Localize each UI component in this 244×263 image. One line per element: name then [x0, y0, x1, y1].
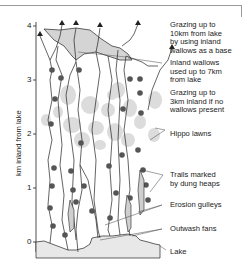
- y-tick-4: 4: [27, 21, 31, 30]
- y-tick-3: 3: [27, 75, 31, 84]
- y-tick-1: 1: [27, 183, 31, 192]
- leader-lines: [100, 58, 166, 250]
- label-lake: Lake: [170, 248, 186, 257]
- trails: [40, 24, 158, 252]
- y-tick-0: 0: [27, 237, 31, 246]
- erosion-gulleys: [68, 170, 144, 232]
- label-hippo-lawns: Hippo lawns: [170, 130, 211, 139]
- label-grazing-10km: Grazing up to 10km from lake by using in…: [170, 21, 232, 55]
- label-trails: Trails marked by dung heaps: [170, 171, 220, 188]
- label-outwash-fans: Outwash fans: [170, 225, 216, 234]
- y-axis-label: km inland from lake: [14, 110, 23, 176]
- label-inland-wallows: Inland wallows used up to 7km from lake: [170, 59, 222, 85]
- y-axis: [33, 22, 36, 252]
- label-grazing-3km: Grazing up to 3km inland if no wallows p…: [170, 89, 224, 115]
- label-erosion-gulleys: Erosion gulleys: [170, 201, 222, 210]
- y-tick-2: 2: [27, 129, 31, 138]
